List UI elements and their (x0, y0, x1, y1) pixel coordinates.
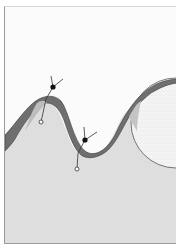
figure-frame (4, 6, 176, 244)
trough-marker-dot (82, 137, 87, 142)
trough-anchor-circle (75, 167, 79, 171)
wave-diagram (5, 7, 176, 244)
crest-anchor-circle (39, 120, 43, 124)
crest-marker-dot (50, 84, 55, 89)
